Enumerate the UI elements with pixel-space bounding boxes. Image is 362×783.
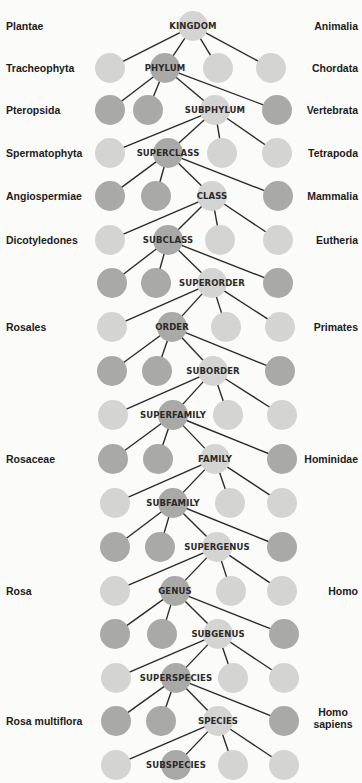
rank-label: SUBORDER: [186, 366, 239, 376]
taxon-node: [263, 181, 293, 211]
plant-taxon-label: Dicotyledones: [6, 234, 78, 246]
plant-taxon-label: Rosaceae: [6, 453, 55, 465]
taxon-node: [98, 444, 128, 474]
taxon-node: [205, 225, 235, 255]
taxon-node: [267, 532, 297, 562]
plant-taxon-label: Rosa multiflora: [6, 715, 82, 727]
rank-label: SUBCLASS: [143, 235, 193, 245]
taxon-node: [216, 576, 246, 606]
edge-line: [163, 428, 169, 445]
taxon-node: [133, 95, 163, 125]
rank-label: FAMILY: [198, 454, 232, 464]
edge-line: [182, 381, 203, 404]
animal-taxon-label: Vertebrata: [307, 104, 358, 116]
edge-line: [227, 118, 266, 145]
taxon-node: [97, 312, 127, 342]
taxon-node: [262, 95, 292, 125]
taxon-node: [101, 663, 131, 693]
taxon-node: [101, 706, 131, 736]
edge-line: [186, 688, 208, 711]
rank-label: GENUS: [158, 586, 191, 596]
taxon-node: [100, 532, 130, 562]
rank-label: KINGDOM: [169, 21, 216, 31]
taxon-node: [207, 138, 237, 168]
plant-taxon-label: Angiospermiae: [6, 190, 82, 202]
tree-edges: [0, 0, 362, 783]
taxon-node: [97, 268, 127, 298]
edge-line: [183, 469, 206, 493]
taxon-node: [267, 488, 297, 518]
plant-taxon-label: Spermatophyta: [6, 147, 82, 159]
plant-taxon-label: Rosales: [6, 321, 46, 333]
plant-taxon-label: Plantae: [6, 20, 43, 32]
edge-line: [178, 163, 202, 186]
edge-line: [153, 81, 159, 97]
taxon-node: [100, 576, 130, 606]
taxon-node: [269, 750, 299, 780]
animal-taxon-label: Primates: [314, 321, 358, 333]
edge-line: [160, 253, 164, 269]
taxon-node: [95, 95, 125, 125]
edge-line: [183, 513, 207, 537]
rank-label: SUBPHYLUM: [185, 105, 245, 115]
taxon-node: [100, 619, 130, 649]
edge-line: [217, 124, 220, 139]
animal-taxon-label: Animalia: [314, 20, 358, 32]
taxon-node: [218, 663, 248, 693]
taxon-node: [97, 356, 127, 386]
taxonomy-diagram: PlantaeTracheophytaPteropsidaSpermatophy…: [0, 0, 362, 783]
edge-line: [183, 425, 206, 449]
edge-line: [162, 340, 168, 357]
edge-line: [216, 296, 222, 313]
taxon-node: [203, 53, 233, 83]
taxon-node: [147, 619, 177, 649]
animal-taxon-label: Tetrapoda: [308, 147, 358, 159]
animal-taxon-label: Eutheria: [316, 234, 358, 246]
edge-line: [166, 691, 172, 708]
taxon-node: [95, 225, 125, 255]
taxon-node: [269, 663, 299, 693]
rank-label: SUPERORDER: [179, 278, 245, 288]
taxon-node: [269, 619, 299, 649]
edge-line: [164, 516, 169, 533]
taxon-node: [101, 750, 131, 780]
edge-line: [221, 560, 227, 577]
taxon-node: [142, 356, 172, 386]
rank-label: SPECIES: [198, 716, 238, 726]
animal-taxon-label: Chordata: [312, 62, 358, 74]
edge-line: [160, 166, 164, 182]
rank-label: ORDER: [155, 322, 189, 332]
taxon-node: [213, 400, 243, 430]
taxon-node: [95, 53, 125, 83]
edge-line: [181, 293, 202, 316]
taxon-node: [263, 268, 293, 298]
edge-line: [218, 384, 224, 401]
taxon-node: [141, 268, 171, 298]
taxon-node: [265, 312, 295, 342]
edge-line: [224, 204, 267, 232]
taxon-node: [267, 400, 297, 430]
edge-line: [185, 557, 208, 581]
taxon-node: [141, 181, 171, 211]
edge-line: [200, 38, 211, 56]
animal-taxon-label: Hominidae: [304, 453, 358, 465]
rank-label: SUPERCLASS: [137, 148, 200, 158]
edge-line: [182, 337, 204, 361]
edge-line: [166, 604, 171, 620]
taxon-node: [211, 312, 241, 342]
edge-line: [173, 38, 185, 57]
taxon-node: [215, 488, 245, 518]
rank-label: SUBSPECIES: [146, 760, 206, 770]
taxon-node: [267, 444, 297, 474]
rank-label: SUPERSPECIES: [140, 673, 212, 683]
edge-line: [223, 647, 229, 664]
edge-line: [220, 472, 226, 489]
taxon-node: [98, 400, 128, 430]
taxon-node: [95, 138, 125, 168]
edge-lines: [121, 32, 272, 759]
edge-line: [186, 731, 209, 755]
edge-line: [178, 250, 202, 273]
taxon-node: [95, 181, 125, 211]
taxon-node: [218, 750, 248, 780]
rank-label: PHYLUM: [145, 63, 186, 73]
